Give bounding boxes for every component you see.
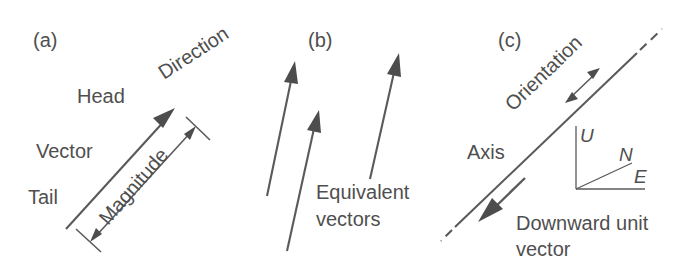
une-coordinate-triad: U N E	[576, 125, 647, 189]
equivalent-vector-3-arrowhead	[387, 53, 401, 77]
vector-concept-figure: (a) Head Direction Vector Tail Magnitude…	[0, 0, 688, 270]
equivalent-vector-1-shaft	[267, 76, 292, 196]
label-equivalent-line1: Equivalent	[316, 181, 410, 203]
n-axis-line	[576, 163, 632, 189]
panel-a-label: (a)	[33, 29, 57, 51]
label-downward-line2: vector	[516, 238, 571, 260]
label-tail: Tail	[28, 186, 58, 208]
orientation-arrowhead-lower	[565, 92, 578, 103]
label-axis: Axis	[467, 141, 505, 163]
equivalent-vector-1-arrowhead	[284, 61, 298, 84]
equivalent-vector-3-shaft	[370, 68, 395, 179]
label-east: E	[634, 166, 647, 187]
magnitude-arrowhead-lower	[90, 228, 102, 242]
label-direction: Direction	[154, 22, 232, 83]
label-head: Head	[77, 85, 125, 107]
panel-b: (b) Equivalent vectors	[267, 29, 410, 251]
equivalent-vector-2-arrowhead	[307, 110, 321, 133]
label-downward-line1: Downward unit	[516, 212, 649, 234]
panel-c-label: (c)	[498, 29, 521, 51]
figure-canvas: (a) Head Direction Vector Tail Magnitude…	[0, 0, 688, 270]
panel-c: (c) Orientation Axis Downward unit vecto…	[441, 29, 662, 260]
axis-dash-upper	[640, 29, 662, 50]
orientation-double-arrow-shaft	[571, 75, 594, 97]
axis-dash-lower	[441, 230, 452, 241]
panel-a: (a) Head Direction Vector Tail Magnitude	[28, 22, 232, 252]
vector-arrowhead	[153, 108, 175, 128]
label-north: N	[619, 144, 633, 165]
label-vector: Vector	[36, 140, 93, 162]
orientation-arrowhead-upper	[587, 68, 600, 79]
label-up: U	[580, 125, 594, 146]
label-equivalent-line2: vectors	[316, 208, 380, 230]
panel-b-label: (b)	[308, 29, 332, 51]
equivalent-vector-2-shaft	[287, 124, 315, 251]
